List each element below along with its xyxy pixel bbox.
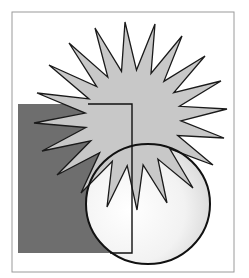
- clipart-illustration: [0, 0, 249, 278]
